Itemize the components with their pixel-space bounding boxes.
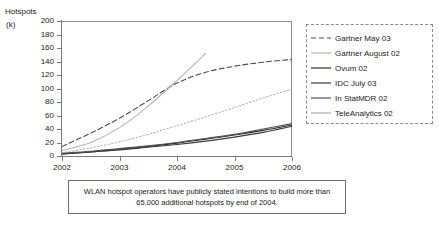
y-tick-label: 160	[30, 44, 54, 52]
y-tick-mark	[57, 62, 61, 63]
legend-item-label: Gartner May 03	[335, 34, 391, 43]
y-tick-label: 180	[30, 31, 54, 39]
y-axis-unit-label: (k)	[6, 20, 15, 30]
legend-swatch-icon	[311, 93, 331, 103]
y-tick-mark	[57, 75, 61, 76]
legend-item[interactable]: Gartner May 03	[311, 31, 430, 45]
y-tick-label: 140	[30, 58, 54, 66]
x-tick-label: 2004	[160, 164, 194, 172]
x-tick-label: 2006	[275, 164, 309, 172]
x-tick-label: 2003	[103, 164, 137, 172]
caption-text: WLAN hotspot operators have publicly sta…	[69, 186, 345, 208]
legend-swatch-icon	[311, 48, 331, 58]
y-tick-mark	[57, 35, 61, 36]
y-tick-label: 60	[30, 112, 54, 120]
chart-legend: Gartner May 03Gartner August 02Ovum 02ID…	[306, 24, 433, 124]
y-tick-mark	[57, 129, 61, 130]
y-tick-label: 0	[30, 152, 54, 160]
y-tick-mark	[57, 89, 61, 90]
legend-item-label: In StatMDR 02	[335, 94, 387, 103]
legend-swatch-icon	[311, 78, 331, 88]
legend-swatch-icon	[311, 63, 331, 73]
legend-swatch-icon	[311, 108, 331, 118]
x-tick-label: 2002	[45, 164, 79, 172]
y-tick-mark	[57, 102, 61, 103]
caption-box: WLAN hotspot operators have publicly sta…	[68, 180, 346, 214]
legend-item-label: Ovum 02	[335, 64, 367, 73]
series-lines	[62, 21, 292, 156]
x-tick-mark	[292, 157, 293, 161]
y-tick-label: 100	[30, 85, 54, 93]
y-tick-label: 120	[30, 71, 54, 79]
legend-item[interactable]: Ovum 02	[311, 61, 430, 75]
x-tick-mark	[120, 157, 121, 161]
x-tick-mark	[62, 157, 63, 161]
legend-item[interactable]: IDC July 03	[311, 76, 430, 90]
legend-item[interactable]: In StatMDR 02	[311, 91, 430, 105]
legend-item-label: Gartner August 02	[335, 49, 400, 58]
y-tick-label: 200	[30, 17, 54, 25]
y-tick-label: 40	[30, 125, 54, 133]
y-tick-mark	[57, 21, 61, 22]
chart-figure: Hotspots (k) 020406080100120140160180200…	[0, 0, 439, 226]
y-tick-label: 20	[30, 139, 54, 147]
y-tick-mark	[57, 156, 61, 157]
legend-item[interactable]: Gartner August 02	[311, 46, 430, 60]
y-tick-label: 80	[30, 98, 54, 106]
y-tick-mark	[57, 143, 61, 144]
legend-item[interactable]: TeleAnalytics 02	[311, 106, 430, 120]
series-line	[62, 125, 292, 154]
legend-swatch-icon	[311, 33, 331, 43]
y-tick-mark	[57, 116, 61, 117]
y-axis-title: Hotspots	[5, 7, 37, 17]
x-tick-mark	[235, 157, 236, 161]
y-tick-mark	[57, 48, 61, 49]
series-line	[62, 124, 292, 154]
legend-item-label: TeleAnalytics 02	[335, 109, 393, 118]
x-tick-label: 2005	[218, 164, 252, 172]
legend-item-label: IDC July 03	[335, 79, 376, 88]
x-tick-mark	[177, 157, 178, 161]
